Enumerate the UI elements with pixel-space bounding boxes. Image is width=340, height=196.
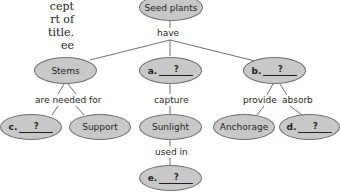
link-label-provide: provide bbox=[242, 95, 278, 106]
node-label: Stems bbox=[51, 66, 79, 76]
node-label: Anchorage bbox=[220, 122, 269, 132]
node-stems: Stems bbox=[34, 57, 97, 84]
node-label: Support bbox=[82, 122, 118, 132]
link-label-have: have bbox=[156, 28, 180, 39]
node-letter: b. bbox=[252, 66, 262, 76]
answer-blank[interactable]: ? bbox=[159, 65, 193, 76]
node-anchorage: Anchorage bbox=[213, 114, 275, 140]
node-letter: e. bbox=[148, 173, 158, 183]
node-support: Support bbox=[69, 114, 131, 140]
node-label: Seed plants bbox=[144, 3, 197, 13]
node-label: Sunlight bbox=[152, 122, 189, 132]
link-label-used-in: used in bbox=[154, 147, 189, 158]
node-c-blank[interactable]: c. ? bbox=[0, 114, 62, 140]
node-e-blank[interactable]: e. ? bbox=[139, 165, 202, 191]
answer-blank[interactable]: ? bbox=[263, 65, 297, 76]
node-sunlight: Sunlight bbox=[139, 114, 202, 140]
node-letter: a. bbox=[148, 66, 158, 76]
node-d-blank[interactable]: d. ? bbox=[279, 114, 340, 140]
answer-blank[interactable]: ? bbox=[19, 122, 53, 133]
link-label-are-needed-for: are needed for bbox=[34, 95, 102, 106]
answer-blank[interactable]: ? bbox=[298, 122, 332, 133]
link-label-capture: capture bbox=[153, 95, 189, 106]
answer-blank[interactable]: ? bbox=[159, 173, 193, 184]
node-letter: d. bbox=[287, 122, 297, 132]
link-label-absorb: absorb bbox=[281, 95, 314, 106]
node-letter: c. bbox=[9, 122, 18, 132]
node-a-blank[interactable]: a. ? bbox=[139, 57, 202, 84]
node-b-blank[interactable]: b. ? bbox=[243, 57, 306, 84]
